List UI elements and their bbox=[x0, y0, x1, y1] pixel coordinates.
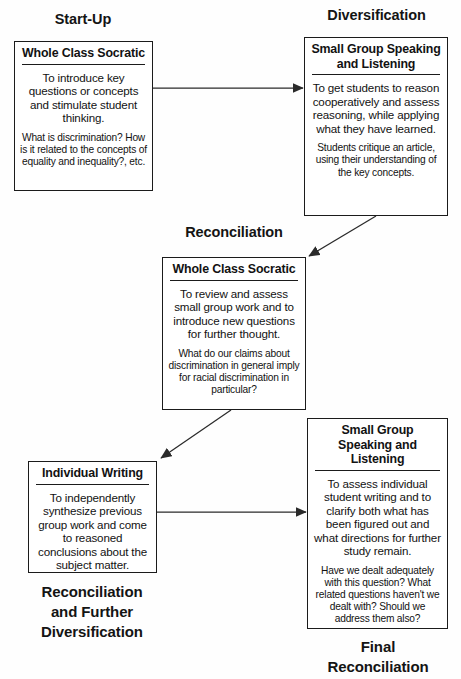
node-whole-class-socratic-1[interactable]: Whole Class Socratic To introduce key qu… bbox=[14, 41, 153, 191]
node-body: To independently synthesize previous gro… bbox=[29, 485, 156, 577]
arrow-reconciliation-to-individual-writing bbox=[161, 410, 231, 458]
node-title: Whole Class Socratic bbox=[163, 258, 305, 280]
stage-label-reconciliation: Reconciliation bbox=[162, 224, 306, 241]
node-title: Small Group Speaking and Listening bbox=[305, 38, 447, 74]
stage-label-final-reconciliation: Final Reconciliation bbox=[306, 637, 450, 677]
node-secondary-text: What do our claims about discrimination … bbox=[168, 348, 300, 396]
diagram-canvas: Start-Up Diversification Reconciliation … bbox=[0, 0, 461, 679]
stage-label-reconciliation-and-further-diversification: Reconciliation and Further Diversificati… bbox=[12, 582, 172, 642]
node-primary-text: To introduce key questions or concepts a… bbox=[20, 71, 147, 125]
node-whole-class-socratic-2[interactable]: Whole Class Socratic To review and asses… bbox=[162, 257, 306, 410]
node-secondary-text: Have we dealt adequately with this quest… bbox=[313, 565, 442, 625]
node-primary-text: To assess individual student writing and… bbox=[313, 477, 442, 559]
node-title: Small Group Speaking and Listening bbox=[308, 419, 447, 470]
node-primary-text: To review and assess small group work an… bbox=[168, 287, 300, 341]
node-title: Individual Writing bbox=[29, 462, 156, 484]
node-body: To assess individual student writing and… bbox=[308, 471, 447, 630]
node-individual-writing[interactable]: Individual Writing To independently synt… bbox=[28, 461, 157, 573]
node-secondary-text: What is discrimination? How is it relate… bbox=[20, 132, 147, 168]
node-body: To review and assess small group work an… bbox=[163, 281, 305, 401]
stage-label-start-up: Start-Up bbox=[14, 11, 152, 28]
node-small-group-speaking-listening-2[interactable]: Small Group Speaking and Listening To as… bbox=[307, 418, 448, 629]
node-body: To get students to reason cooperatively … bbox=[305, 75, 447, 183]
arrow-diversification-to-reconciliation bbox=[309, 216, 376, 256]
stage-label-diversification: Diversification bbox=[305, 7, 448, 24]
node-primary-text: To independently synthesize previous gro… bbox=[34, 491, 151, 573]
node-title: Whole Class Socratic bbox=[15, 42, 152, 64]
node-body: To introduce key questions or concepts a… bbox=[15, 65, 152, 173]
node-primary-text: To get students to reason cooperatively … bbox=[310, 81, 442, 135]
node-small-group-speaking-listening-1[interactable]: Small Group Speaking and Listening To ge… bbox=[304, 37, 448, 216]
node-secondary-text: Students critique an article, using thei… bbox=[310, 142, 442, 178]
